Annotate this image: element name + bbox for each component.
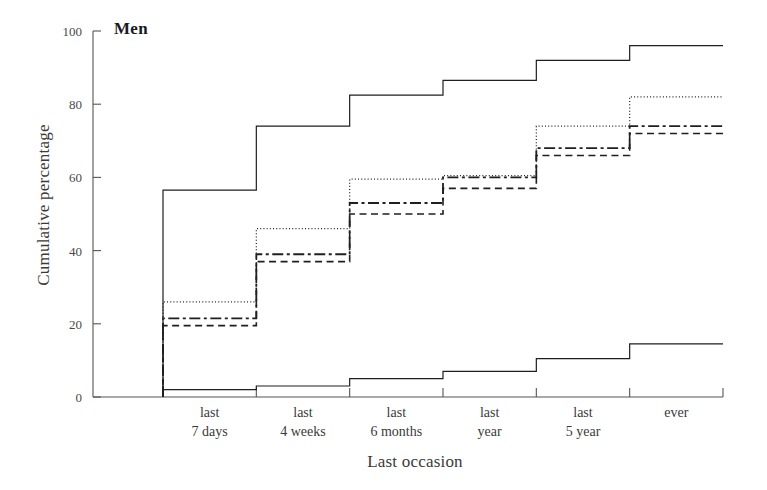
x-category-label-1-line-1: 4 weeks — [280, 424, 326, 439]
y-tick-label-0: 0 — [76, 390, 83, 405]
y-tick-label-80: 80 — [69, 97, 82, 112]
panel-title: Men — [114, 19, 148, 39]
x-category-label-0-line-0: last — [200, 405, 220, 420]
x-category-label-4-line-1: 5 year — [566, 424, 601, 439]
series-line-series-3-dash-dot — [163, 126, 723, 397]
x-category-label-5-line-0: ever — [664, 405, 688, 420]
y-axis-title: Cumulative percentage — [34, 5, 60, 405]
series-line-series-2-dotted — [163, 97, 723, 397]
y-axis-tick-labels: 020406080100 — [63, 24, 83, 405]
x-axis-title: Last occasion — [100, 452, 730, 472]
x-category-label-2-line-0: last — [387, 405, 407, 420]
x-category-label-2-line-1: 6 months — [370, 424, 422, 439]
x-category-label-1-line-0: last — [293, 405, 313, 420]
y-tick-label-20: 20 — [69, 317, 82, 332]
x-category-label-3-line-0: last — [480, 405, 500, 420]
x-axis-category-labels: last7 dayslast4 weekslast6 monthslastyea… — [192, 405, 689, 439]
y-axis-ticks — [93, 31, 101, 397]
series-group — [163, 46, 723, 397]
x-category-label-3-line-1: year — [478, 424, 502, 439]
y-tick-label-100: 100 — [63, 24, 83, 39]
series-line-series-4-dashed — [163, 133, 723, 397]
cumulative-percentage-step-chart: 020406080100 last7 dayslast4 weekslast6 … — [0, 0, 767, 490]
chart-page: 020406080100 last7 dayslast4 weekslast6 … — [0, 0, 767, 490]
x-category-label-0-line-1: 7 days — [192, 424, 228, 439]
x-category-label-4-line-0: last — [573, 405, 593, 420]
y-tick-label-60: 60 — [69, 170, 82, 185]
y-tick-label-40: 40 — [69, 244, 82, 259]
plot-canvas: 020406080100 last7 dayslast4 weekslast6 … — [0, 0, 767, 490]
